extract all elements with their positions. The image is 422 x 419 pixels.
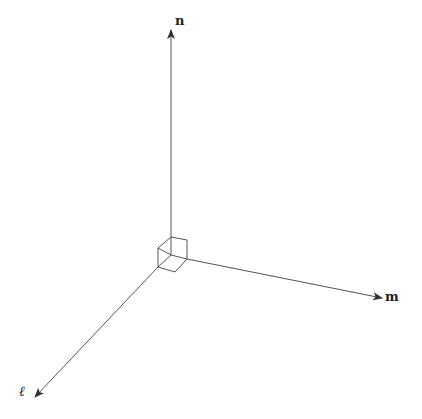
coordinate-axes-diagram: n m ℓ	[0, 0, 422, 419]
axis-label-n: n	[175, 13, 185, 28]
axis-m	[187, 259, 382, 298]
axis-l	[35, 267, 158, 397]
origin-cube-icon	[158, 237, 187, 272]
axis-label-m: m	[385, 289, 399, 304]
axis-label-l: ℓ	[19, 383, 25, 399]
